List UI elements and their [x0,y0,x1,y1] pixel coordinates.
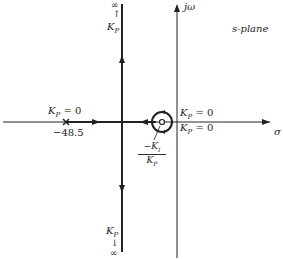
bottom-arrow: ↓ [111,239,119,248]
upper-kp-label: KP = 0 [180,108,213,121]
pole-kp-label: KP = 0 [48,106,81,119]
locus-arrow-left-icon [140,119,148,125]
locus-arrow-right-icon [92,119,100,125]
circle-arrow-bottom-icon [161,130,165,134]
real-axis-arrow-icon [262,119,270,125]
locus-arrow-down-icon [119,185,125,193]
lower-kp-label: KP = 0 [180,123,213,136]
circle-arrow-top-icon [161,110,165,114]
top-arrow: ↑ [113,10,121,19]
bottom-infinity: ∞ [110,249,118,258]
imag-axis-label: jω [184,2,195,12]
imag-axis-arrow-icon [174,4,180,12]
root-locus-diagram [0,0,283,260]
plane-title: s-plane [232,24,268,34]
zero-fraction: −KI KP [138,142,166,168]
zero-o-icon [160,120,165,125]
pole-value: −48.5 [53,128,84,138]
locus-arrow-up-icon [119,55,125,63]
real-axis-label: σ [274,127,281,137]
top-kp: KP [107,22,119,35]
